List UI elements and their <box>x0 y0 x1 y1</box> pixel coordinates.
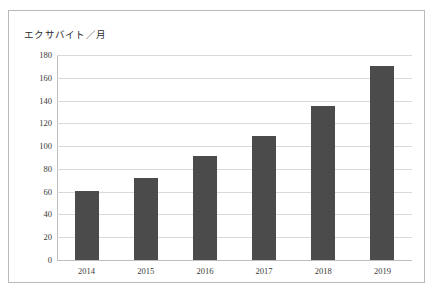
gridline <box>57 169 412 170</box>
x-axis-tick-label: 2018 <box>295 266 351 276</box>
chart-figure: エクサバイト／月 020406080100120140160180 201420… <box>0 0 433 292</box>
gridline <box>57 260 412 261</box>
x-axis-tick-label: 2017 <box>236 266 292 276</box>
y-axis-tick-label: 100 <box>12 141 52 151</box>
gridline <box>57 78 412 79</box>
gridline <box>57 101 412 102</box>
bar[interactable] <box>134 178 158 260</box>
x-axis-tick-label: 2015 <box>118 266 174 276</box>
y-axis-tick-label: 140 <box>12 96 52 106</box>
gridline <box>57 146 412 147</box>
y-axis-tick-label: 180 <box>12 50 52 60</box>
gridline <box>57 214 412 215</box>
y-axis-tick-labels: 020406080100120140160180 <box>10 55 52 260</box>
bar[interactable] <box>311 106 335 260</box>
y-axis-tick-label: 0 <box>12 255 52 265</box>
x-axis-tick-label: 2019 <box>354 266 410 276</box>
gridline <box>57 192 412 193</box>
y-axis-unit-label: エクサバイト／月 <box>24 27 106 41</box>
x-axis-tick-label: 2014 <box>59 266 115 276</box>
plot-area <box>57 55 412 260</box>
y-axis-tick-label: 40 <box>12 209 52 219</box>
bar[interactable] <box>193 156 217 260</box>
y-axis-tick-label: 160 <box>12 73 52 83</box>
y-axis-tick-label: 20 <box>12 232 52 242</box>
gridline <box>57 237 412 238</box>
y-axis-tick-label: 60 <box>12 187 52 197</box>
bar[interactable] <box>252 136 276 260</box>
y-axis-tick-label: 120 <box>12 118 52 128</box>
gridline <box>57 55 412 56</box>
x-axis-tick-label: 2016 <box>177 266 233 276</box>
gridline <box>57 123 412 124</box>
bar[interactable] <box>370 66 394 260</box>
bar[interactable] <box>75 191 99 260</box>
y-axis-tick-label: 80 <box>12 164 52 174</box>
